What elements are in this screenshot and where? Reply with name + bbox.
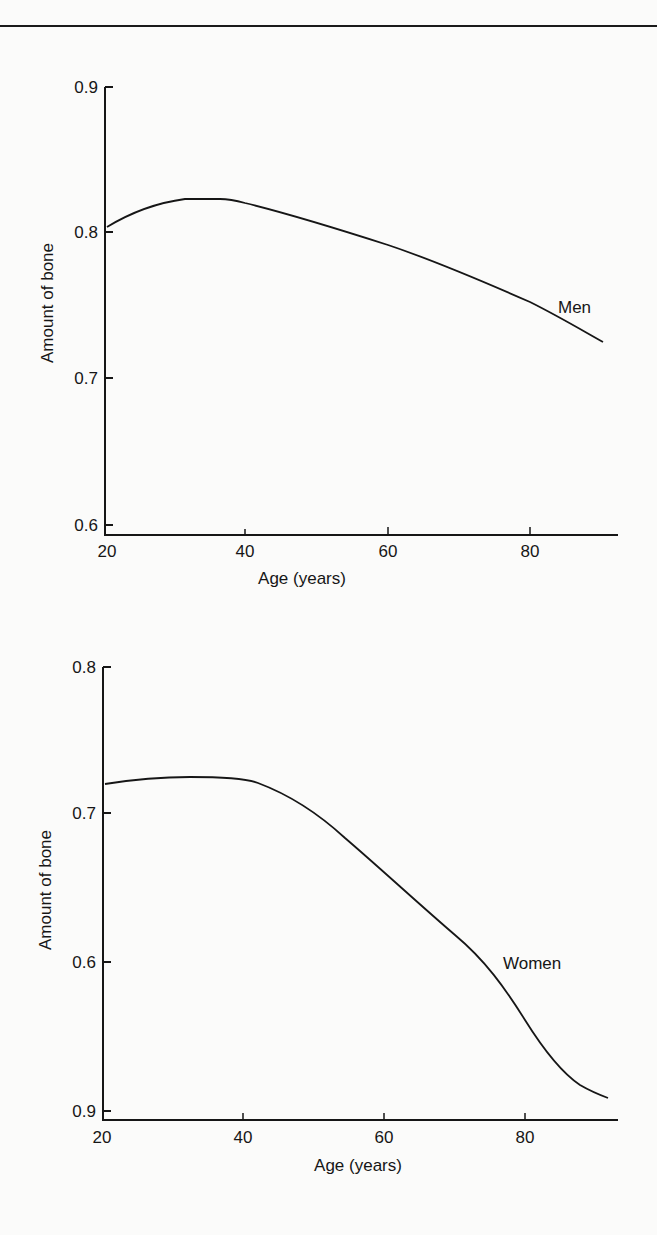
x-tick-label: 20	[98, 542, 117, 561]
y-tick-label: 0.7	[72, 804, 96, 823]
y-tick-label: 0.6	[74, 516, 98, 535]
x-axis-label: Age (years)	[258, 569, 346, 588]
y-tick-label: 0.9	[74, 78, 98, 97]
x-tick-label: 80	[521, 542, 540, 561]
y-tick-label: 0.8	[72, 658, 96, 677]
y-axis-label: Amount of bone	[36, 830, 55, 950]
men-chart: 0.9 0.8 0.7 0.6 20 40 60 80 Age (years) …	[0, 0, 657, 600]
x-tick-label: 20	[93, 1128, 112, 1147]
men-line	[107, 199, 603, 342]
x-axis-label: Age (years)	[314, 1156, 402, 1175]
y-tick-label: 0.6	[72, 953, 96, 972]
y-axis-label: Amount of bone	[38, 243, 57, 363]
women-chart: 0.8 0.7 0.6 0.9 20 40 60 80 Age (years) …	[0, 600, 657, 1235]
men-series-label: Men	[558, 298, 591, 317]
x-tick-label: 60	[379, 542, 398, 561]
women-series-label: Women	[503, 954, 561, 973]
x-tick-label: 40	[234, 1128, 253, 1147]
y-tick-label: 0.8	[74, 223, 98, 242]
x-tick-label: 40	[236, 542, 255, 561]
y-tick-label: 0.7	[74, 369, 98, 388]
x-tick-label: 80	[516, 1128, 535, 1147]
women-line	[105, 777, 608, 1098]
y-tick-label: 0.9	[72, 1102, 96, 1121]
x-tick-label: 60	[375, 1128, 394, 1147]
